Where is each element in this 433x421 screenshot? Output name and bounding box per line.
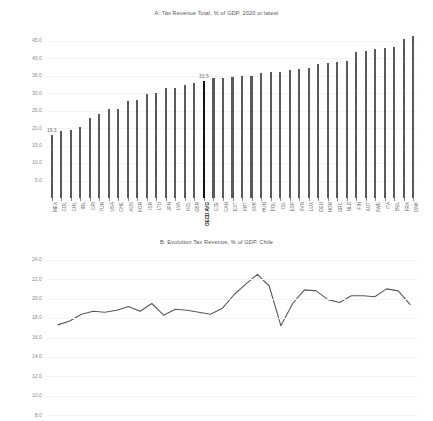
x-axis-tick-mark [280,198,281,201]
x-axis-tick-label: TUR [101,202,106,211]
x-axis-tick-mark [318,198,319,201]
x-axis-tick-label: FIN [358,202,363,209]
x-axis-tick-mark [299,198,300,201]
x-axis-tick-mark [337,198,338,201]
x-axis-tick-label: JPN [168,202,173,211]
y-axis-tick-label: 35.0 [32,73,42,78]
y-axis-tick-label: 16.0 [32,335,42,340]
x-axis-tick-mark [61,198,62,201]
x-axis-tick-label: GBR [196,202,201,212]
x-axis-tick-label: MEX [54,202,59,212]
x-axis-tick-mark [366,198,367,201]
y-axis-tick-label: 45.0 [32,38,42,43]
x-axis-tick-mark [261,198,262,201]
bar-value-label: 33.5 [199,74,209,79]
bar [403,39,405,198]
x-axis-tick-mark [166,198,167,201]
x-axis-tick-mark [156,198,157,201]
x-axis-tick-label: FRA [406,202,411,211]
y-axis-tick-label: 30.0 [32,91,42,96]
bar [98,114,100,198]
x-axis-tick-label: IRL [82,202,87,209]
bar [241,76,243,198]
bar [279,72,281,198]
bar [193,83,195,198]
x-axis-tick-label: OECD AVG [206,202,211,226]
panel-b: B: Evolution Tax Revenue, % of GDP, Chil… [0,231,433,421]
x-axis-tick-label: CHL [73,202,78,211]
bar [250,76,252,198]
x-axis-tick-label: CHE [120,202,125,212]
x-axis-tick-mark [109,198,110,201]
bar [117,109,119,198]
x-axis-tick-mark [137,198,138,201]
gridline [47,415,418,416]
x-axis-tick-mark [90,198,91,201]
bar [308,68,310,198]
x-axis-tick-label: ISL [282,202,287,209]
bar [51,135,53,198]
x-axis-tick-label: AUT [367,202,372,211]
x-axis-tick-mark [80,198,81,201]
x-axis-tick-mark [356,198,357,201]
y-axis-tick-label: 40.0 [32,56,42,61]
x-axis-tick-mark [385,198,386,201]
gridline [47,376,418,377]
bar [384,48,386,198]
panel-b-plot-area [47,251,418,421]
bar [155,93,157,198]
gridline [47,318,418,319]
x-axis-tick-mark [413,198,414,201]
x-axis-tick-label: NLD [348,202,353,211]
bar [374,49,376,198]
y-axis-tick-label: 20.0 [32,296,42,301]
bar [289,70,291,198]
y-axis-tick-label: 12.0 [32,374,42,379]
bar [336,62,338,198]
x-axis-tick-label: CAN [225,202,230,212]
gridline [47,299,418,300]
x-axis-tick-mark [252,198,253,201]
x-axis-tick-label: POL [272,202,277,211]
bar [212,78,214,198]
x-axis-tick-mark [118,198,119,201]
bar [70,130,72,198]
gridline [47,58,418,59]
x-axis-tick-label: ITA [387,202,392,209]
y-axis-tick-label: 8.0 [35,413,42,418]
x-axis-tick-label: ESP [291,202,296,211]
x-axis-tick-label: HUN [263,202,268,212]
x-axis-tick-label: LTU [158,202,163,210]
x-axis-tick-mark [328,198,329,201]
x-axis-tick-mark [204,198,205,201]
y-axis-tick-label: 25.0 [32,108,42,113]
x-axis-tick-mark [71,198,72,201]
gridline [47,260,418,261]
x-axis-tick-label: NOR [329,202,334,212]
gridline [47,357,418,358]
x-axis-tick-label: NZL [187,202,192,211]
panel-b-title: B: Evolution Tax Revenue, % of GDP, Chil… [0,239,433,245]
bar [146,94,148,198]
x-axis-tick-label: COL [63,202,68,211]
x-axis-tick-label: CZE [215,202,220,211]
panel-a-title: A: Tax Revenue Total, % of GDP, 2020 or … [0,10,433,16]
bar [79,127,81,198]
x-axis-tick-mark [213,198,214,201]
bar [355,52,357,198]
bar [127,101,129,199]
x-axis-tick-label: SVK [253,202,258,211]
bar [231,77,233,198]
bar [174,88,176,198]
panel-a: A: Tax Revenue Total, % of GDP, 2020 or … [0,0,433,231]
gridline [47,279,418,280]
x-axis-tick-mark [128,198,129,201]
x-axis-tick-mark [271,198,272,201]
y-axis-tick-label: 18.0 [32,315,42,320]
x-axis-tick-label: AUS [130,202,135,211]
bar-value-label: 19.3 [47,128,57,133]
bar [298,69,300,198]
y-axis-tick-label: 14.0 [32,354,42,359]
y-axis-tick-label: 5.0 [35,178,42,183]
x-axis-tick-mark [242,198,243,201]
